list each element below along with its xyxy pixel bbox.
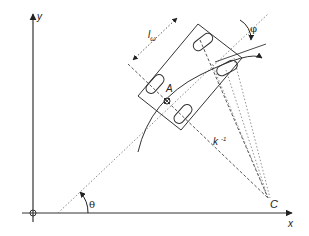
front-wheel-radius-line-3 — [234, 58, 270, 198]
heading-line — [58, 14, 268, 213]
point-c-label: C — [270, 199, 278, 210]
curvature-symbol: k — [213, 136, 218, 147]
trajectory-curve — [138, 56, 262, 152]
wheelbase-label: lω — [148, 30, 156, 42]
front-left-wheel — [191, 31, 214, 52]
curvature-exponent: -1 — [221, 136, 226, 142]
rear-left-wheel — [144, 72, 166, 95]
front-wheel-radius-line-2 — [226, 70, 268, 198]
curvature-label: k-1 — [213, 136, 226, 147]
y-axis-label: y — [37, 12, 42, 22]
steering-angle-label: φ — [250, 24, 257, 34]
theta-arc — [80, 192, 88, 213]
x-axis-label: x — [288, 219, 293, 229]
rear-axle-line — [128, 64, 268, 198]
heading-angle-label: θ — [89, 200, 95, 210]
wheelbase-subscript: ω — [150, 35, 155, 42]
point-a-label: A — [166, 84, 173, 94]
vehicle-kinematics-diagram: y x A C lω φ θ k-1 — [0, 0, 309, 236]
rear-right-wheel — [172, 102, 194, 125]
